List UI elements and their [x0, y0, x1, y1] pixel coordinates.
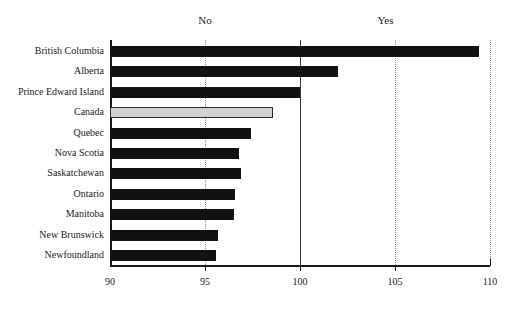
category-label: New Brunswick — [2, 229, 104, 240]
category-label: Prince Edward Island — [2, 86, 104, 97]
bar — [110, 66, 338, 77]
category-label: Saskatchewan — [2, 167, 104, 178]
annotation-no: No — [198, 14, 211, 26]
bar — [110, 209, 234, 220]
bar — [110, 107, 273, 118]
plot-area: British ColumbiaAlbertaPrince Edward Isl… — [110, 40, 490, 265]
gridline-105 — [395, 40, 397, 265]
bar — [110, 46, 479, 57]
x-tick-90 — [110, 259, 111, 266]
x-tick-95 — [205, 265, 206, 271]
x-tick-label: 110 — [483, 276, 498, 287]
x-tick-label: 100 — [293, 276, 308, 287]
category-label: Manitoba — [2, 208, 104, 219]
category-label: British Columbia — [2, 45, 104, 56]
bar — [110, 230, 218, 241]
category-label: Canada — [2, 106, 104, 117]
x-tick-label: 95 — [200, 276, 210, 287]
category-label: Newfoundland — [2, 249, 104, 260]
category-label: Nova Scotia — [2, 147, 104, 158]
bar — [110, 189, 235, 200]
category-label: Ontario — [2, 188, 104, 199]
bar-chart: No Yes British ColumbiaAlbertaPrince Edw… — [0, 0, 513, 310]
category-label: Alberta — [2, 65, 104, 76]
x-tick-label: 90 — [105, 276, 115, 287]
annotation-yes: Yes — [377, 14, 393, 26]
x-tick-105 — [395, 265, 396, 271]
gridline-110 — [490, 40, 492, 265]
category-label: Quebec — [2, 127, 104, 138]
x-tick-label: 105 — [388, 276, 403, 287]
bar — [110, 148, 239, 159]
bar — [110, 168, 241, 179]
bar — [110, 128, 251, 139]
x-tick-100 — [300, 265, 301, 271]
bar — [110, 87, 300, 98]
bar — [110, 250, 216, 261]
x-tick-110 — [490, 259, 491, 266]
